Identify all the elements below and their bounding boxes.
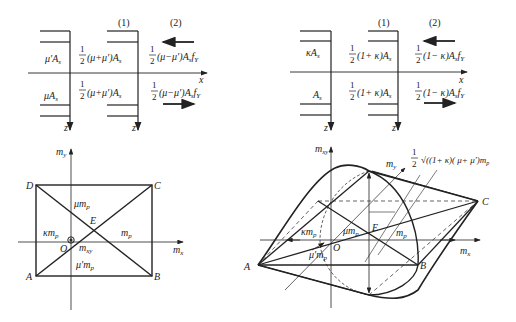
point-b-label: B [154, 271, 160, 282]
point-e-label: E [89, 215, 96, 226]
col2-upper-label: (1− κ)AsfY [423, 50, 465, 63]
svg-text:mxy: mxy [79, 242, 93, 255]
svg-text:mxy: mxy [315, 143, 329, 156]
diagram-canvas: (1) (2) μ′As μAs 1 2 (μ+μ′)As 1 2 (μ+μ′)… [0, 0, 516, 322]
svg-text:μmp: μmp [342, 225, 359, 238]
svg-text:2: 2 [80, 56, 85, 66]
z-axis-label: z [323, 122, 328, 133]
point-a-label: A [243, 261, 251, 272]
svg-text:my: my [56, 146, 67, 159]
column-1-label: (1) [118, 17, 130, 29]
col1-lower-label: (μ+μ′)As [87, 87, 122, 100]
section-diagram-left [28, 31, 207, 130]
x-axis-label: x [198, 74, 204, 85]
svg-text:mx: mx [460, 245, 471, 258]
point-c-label: C [154, 180, 161, 191]
col1-lower-label: (1+ κ)As [357, 87, 392, 100]
compression-steel-label: κAs [306, 47, 320, 60]
svg-text:1: 1 [350, 80, 355, 90]
z-axis-label: z [63, 122, 68, 133]
column-2-label: (2) [170, 17, 182, 29]
svg-text:1: 1 [416, 80, 421, 90]
tension-steel-label: μAs [43, 90, 58, 103]
svg-text:1: 1 [412, 147, 417, 157]
point-b-label: B [420, 260, 426, 271]
point-c-label: C [482, 196, 489, 207]
svg-text:2: 2 [412, 159, 417, 169]
svg-text:2: 2 [416, 92, 421, 102]
svg-text:2: 2 [150, 56, 155, 66]
svg-text:κmp: κmp [43, 227, 59, 240]
point-a-label: A [25, 271, 33, 282]
svg-text:mp: mp [121, 227, 132, 240]
svg-text:2: 2 [350, 92, 355, 102]
svg-text:1: 1 [152, 80, 157, 90]
svg-text:μ′mp: μ′mp [308, 249, 327, 262]
yield-rectangle-labels: my mx D C A B E O μmp κmp mp mxy μ′mp [25, 146, 184, 282]
svg-text:μ′mp: μ′mp [75, 259, 94, 272]
col2-lower-label: (μ−μ′)AsfY [159, 87, 201, 100]
svg-text:2: 2 [350, 55, 355, 65]
point-e-label: E [371, 222, 378, 233]
col2-lower-label: (1− κ)AsfY [423, 87, 465, 100]
origin-label: O [333, 242, 340, 253]
point-d-label: D [25, 180, 34, 191]
origin-label: O [60, 243, 67, 254]
svg-text:1: 1 [80, 44, 85, 54]
column-2-label: (2) [429, 17, 441, 29]
col2-upper-label: (μ−μ′)AsfY [157, 51, 199, 64]
svg-text:1: 1 [416, 43, 421, 53]
col1-upper-label: (μ+μ′)As [87, 52, 122, 65]
svg-text:1: 1 [350, 43, 355, 53]
section-diagram-right [290, 31, 467, 130]
svg-text:κmp: κmp [301, 226, 317, 239]
svg-text:2: 2 [80, 91, 85, 101]
svg-text:1: 1 [80, 79, 85, 89]
height-formula: √((1+ κ)( μ+ μ′)mp [421, 155, 489, 166]
svg-text:μmp: μmp [73, 198, 90, 211]
svg-text:mp: mp [396, 227, 407, 240]
col1-upper-label: (1+ κ)As [357, 50, 392, 63]
compression-steel-label: μ′As [44, 53, 61, 66]
svg-text:1: 1 [150, 44, 155, 54]
column-1-label: (1) [378, 17, 390, 29]
svg-text:mx: mx [173, 244, 184, 257]
tension-steel-label: As [312, 89, 322, 102]
z-axis-label: z [131, 122, 136, 133]
x-axis-label: x [458, 74, 464, 85]
svg-text:2: 2 [416, 55, 421, 65]
svg-text:2: 2 [152, 92, 157, 102]
z-axis-label: z [391, 122, 396, 133]
svg-text:my: my [386, 158, 397, 171]
yield-surface-3d [258, 147, 480, 308]
